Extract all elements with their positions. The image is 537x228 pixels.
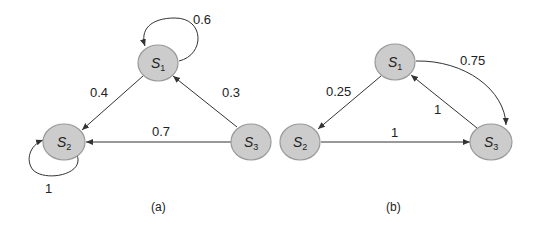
edge-a-s3-s1 <box>173 76 237 127</box>
edge-label-a-s1-s2: 0.4 <box>90 85 108 100</box>
edge-label-a-s3-s2: 0.7 <box>152 124 170 139</box>
edge-label-a-s1-s1: 0.6 <box>193 12 211 27</box>
edge-b-s3-s1 <box>411 75 477 128</box>
edge-label-a-s2-s2: 1 <box>45 181 52 196</box>
caption-a: (a) <box>151 200 166 214</box>
node-b-s3: S3 <box>470 124 512 160</box>
state-transition-diagram: 0.6 0.4 0.3 0.7 1 S1 S2 S3 (a) 0.75 0.25 <box>0 0 537 228</box>
node-a-s3: S3 <box>231 124 271 160</box>
node-b-s1: S1 <box>375 44 415 80</box>
edge-label-a-s3-s1: 0.3 <box>222 85 240 100</box>
edge-label-b-s1-s2: 0.25 <box>326 84 351 99</box>
edge-label-b-s1-s3: 0.75 <box>460 53 485 68</box>
node-a-s1: S1 <box>138 45 178 81</box>
node-b-s2: S2 <box>280 124 320 160</box>
panel-a: 0.6 0.4 0.3 0.7 1 S1 S2 S3 (a) <box>29 12 271 214</box>
node-a-s2: S2 <box>43 124 85 160</box>
panel-b: 0.75 0.25 1 1 S1 S2 S3 (b) <box>280 44 512 214</box>
edge-label-b-s3-s1: 1 <box>434 102 441 117</box>
edge-label-b-s2-s3: 1 <box>391 125 398 140</box>
caption-b: (b) <box>386 200 401 214</box>
